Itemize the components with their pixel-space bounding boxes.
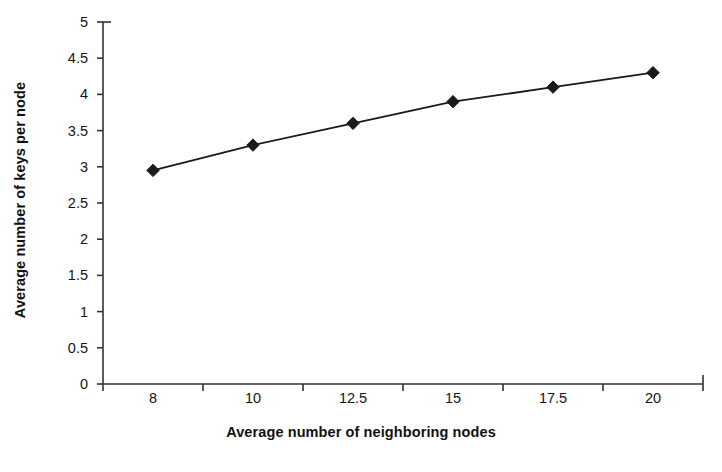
y-axis-tick-label: 2.5 (68, 195, 88, 211)
chart-svg (103, 22, 703, 384)
x-axis-tick-label: 20 (645, 390, 661, 406)
y-axis-tick-label: 0 (80, 376, 88, 392)
y-axis-tick-label: 3.5 (68, 123, 88, 139)
data-point-marker (247, 139, 259, 151)
x-axis-tick-label: 10 (245, 390, 261, 406)
x-axis-tick-label: 15 (445, 390, 461, 406)
x-axis-title-label: Average number of neighboring nodes (226, 424, 496, 440)
plot-area (103, 22, 703, 384)
data-point-marker (447, 95, 459, 107)
y-axis-title: Average number of keys per node (0, 0, 40, 400)
x-axis-ticks (103, 375, 703, 391)
y-axis-tick-labels: 54.543.532.521.510.50 (42, 0, 94, 472)
data-point-marker (647, 66, 659, 78)
y-axis-tick-label: 4.5 (68, 50, 88, 66)
y-axis-ticks (97, 22, 111, 384)
y-axis-tick-label: 1 (80, 304, 88, 320)
x-axis-tick-labels: 81012.51517.520 (103, 390, 703, 414)
x-axis-tick-label: 8 (149, 390, 157, 406)
x-axis-tick-label: 12.5 (339, 390, 367, 406)
y-axis-tick-label: 1.5 (68, 267, 88, 283)
y-axis-tick-label: 2 (80, 231, 88, 247)
data-point-marker (147, 164, 159, 176)
y-axis-tick-label: 0.5 (68, 340, 88, 356)
x-axis-tick-label: 17.5 (539, 390, 567, 406)
y-axis-tick-label: 4 (80, 86, 88, 102)
chart-container: Average number of keys per node 54.543.5… (0, 0, 722, 472)
x-axis-title: Average number of neighboring nodes (0, 424, 722, 440)
y-axis-tick-label: 5 (80, 14, 88, 30)
data-series-line (153, 73, 653, 171)
data-point-marker (347, 117, 359, 129)
y-axis-title-label: Average number of keys per node (12, 82, 28, 318)
data-point-marker (547, 81, 559, 93)
y-axis-tick-label: 3 (80, 159, 88, 175)
